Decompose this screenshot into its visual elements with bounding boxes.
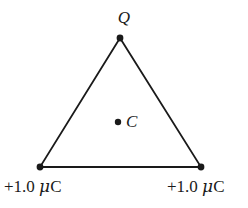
centroid-point-dot xyxy=(115,119,121,125)
center-point-label: C xyxy=(126,113,137,130)
bottom-left-micro-symbol: μ xyxy=(39,176,50,196)
apex-charge-label: Q xyxy=(0,9,248,26)
bottom-left-charge-value: +1.0 xyxy=(4,177,35,196)
apex-charge-dot xyxy=(117,35,124,42)
physics-diagram-figure: Q C +1.0 μC +1.0 μC xyxy=(0,0,248,208)
equilateral-triangle-outline xyxy=(40,38,201,167)
bottom-right-coulomb-unit: C xyxy=(213,177,224,196)
bottom-left-charge-dot xyxy=(37,164,44,171)
bottom-right-charge-value: +1.0 xyxy=(167,177,198,196)
bottom-right-charge-label: +1.0 μC xyxy=(167,178,225,195)
bottom-left-coulomb-unit: C xyxy=(50,177,61,196)
bottom-right-charge-dot xyxy=(198,164,205,171)
bottom-left-charge-label: +1.0 μC xyxy=(4,178,62,195)
bottom-right-micro-symbol: μ xyxy=(202,176,213,196)
